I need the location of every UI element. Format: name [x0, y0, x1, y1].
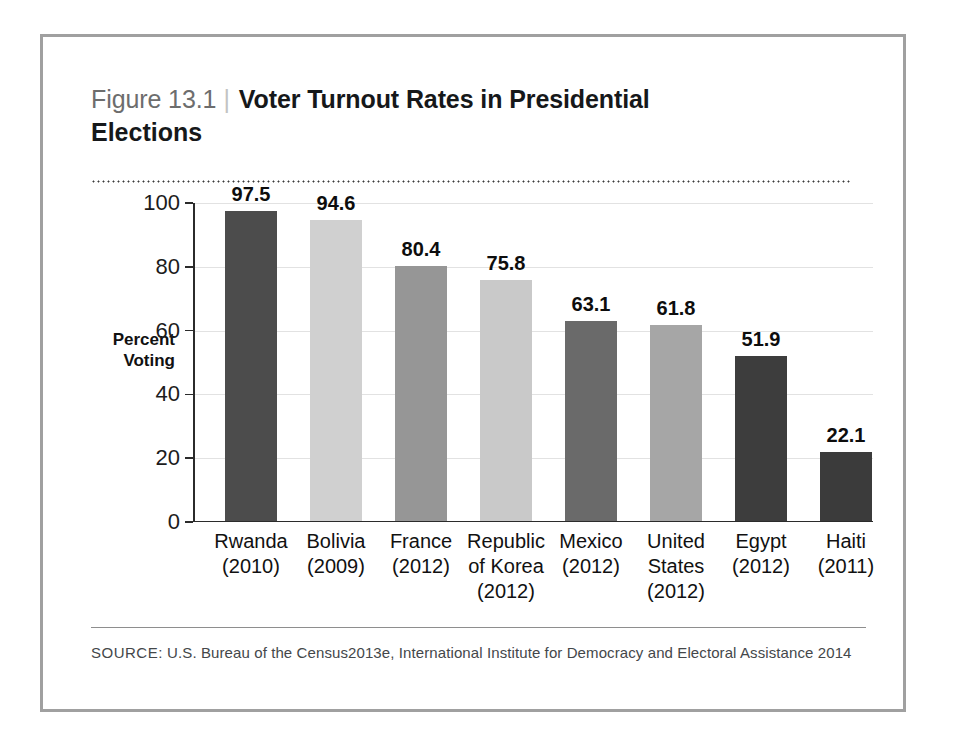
category-name: of Korea — [464, 554, 549, 579]
y-axis-tick — [185, 521, 193, 523]
x-axis-category-label: UnitedStates(2012) — [634, 529, 719, 604]
category-year: (2012) — [549, 554, 634, 579]
category-year: (2012) — [634, 579, 719, 604]
source-label: SOURCE: — [91, 644, 163, 661]
x-axis-category-label: France(2012) — [379, 529, 464, 579]
bar-value-label: 75.8 — [487, 252, 526, 275]
chart-plot-area: PercentVoting 97.594.680.475.863.161.851… — [193, 203, 873, 522]
bar-value-label: 63.1 — [572, 293, 611, 316]
x-axis-category-label: Mexico(2012) — [549, 529, 634, 579]
category-year: (2012) — [379, 554, 464, 579]
bar[interactable] — [565, 321, 617, 522]
figure-title-divider: | — [216, 85, 238, 113]
source-text: U.S. Bureau of the Census2013e, Internat… — [163, 644, 852, 661]
category-year: (2009) — [294, 554, 379, 579]
y-axis-tick — [185, 330, 193, 332]
bar-slot: 80.4 — [395, 203, 447, 522]
category-name: United — [634, 529, 719, 554]
category-name: Mexico — [549, 529, 634, 554]
category-name: Egypt — [719, 529, 804, 554]
y-axis-tick — [185, 202, 193, 204]
bar-value-label: 80.4 — [402, 238, 441, 261]
figure-title-line-1: Figure 13.1|Voter Turnout Rates in Presi… — [91, 83, 851, 116]
bar-value-label: 94.6 — [317, 192, 356, 215]
x-axis-category-label: Egypt(2012) — [719, 529, 804, 579]
bar-value-label: 97.5 — [232, 183, 271, 206]
bar[interactable] — [820, 452, 872, 522]
category-year: (2011) — [804, 554, 889, 579]
bar[interactable] — [225, 211, 277, 522]
figure-title-block: Figure 13.1|Voter Turnout Rates in Presi… — [91, 83, 851, 149]
bar-value-label: 51.9 — [742, 328, 781, 351]
bar[interactable] — [650, 325, 702, 522]
x-axis-category-labels: Rwanda(2010)Bolivia(2009)France(2012)Rep… — [193, 529, 873, 629]
source-note: SOURCE: U.S. Bureau of the Census2013e, … — [91, 641, 866, 665]
figure-frame: Figure 13.1|Voter Turnout Rates in Presi… — [40, 34, 906, 712]
y-axis-tick-label: 20 — [156, 445, 180, 471]
bar[interactable] — [310, 220, 362, 522]
bar-slot: 22.1 — [820, 203, 872, 522]
bar[interactable] — [480, 280, 532, 522]
x-axis-category-label: Haiti(2011) — [804, 529, 889, 579]
figure-title-text: Voter Turnout Rates in Presidential — [239, 85, 650, 113]
bar-slot: 61.8 — [650, 203, 702, 522]
figure-title-line-2: Elections — [91, 116, 851, 149]
y-axis-tick-label: 0 — [168, 509, 180, 535]
x-axis-category-label: Bolivia(2009) — [294, 529, 379, 579]
bar-slot: 63.1 — [565, 203, 617, 522]
y-axis-tick-label: 80 — [156, 254, 180, 280]
bar-slot: 75.8 — [480, 203, 532, 522]
y-axis-tick-label: 40 — [156, 381, 180, 407]
bar-slot: 94.6 — [310, 203, 362, 522]
category-name: States — [634, 554, 719, 579]
y-axis-tick — [185, 394, 193, 396]
bar[interactable] — [735, 356, 787, 522]
bar-value-label: 61.8 — [657, 297, 696, 320]
y-axis-line — [193, 203, 195, 522]
y-axis-tick-label: 100 — [143, 190, 180, 216]
category-year: (2012) — [719, 554, 804, 579]
y-axis-tick — [185, 266, 193, 268]
category-year: (2012) — [464, 579, 549, 604]
x-axis-category-label: Republicof Korea(2012) — [464, 529, 549, 604]
category-name: Rwanda — [209, 529, 294, 554]
bar[interactable] — [395, 266, 447, 522]
chart-plot-inner: 97.594.680.475.863.161.851.922.1 0204060… — [193, 203, 873, 522]
category-name: France — [379, 529, 464, 554]
bar-value-label: 22.1 — [827, 424, 866, 447]
x-axis-line — [193, 521, 873, 523]
y-axis-tick — [185, 457, 193, 459]
figure-number: Figure 13.1 — [91, 85, 216, 113]
y-axis-tick-label: 60 — [156, 318, 180, 344]
title-dotted-divider — [91, 180, 851, 183]
bar-slot: 51.9 — [735, 203, 787, 522]
x-axis-category-label: Rwanda(2010) — [209, 529, 294, 579]
bar-slot: 97.5 — [225, 203, 277, 522]
category-year: (2010) — [209, 554, 294, 579]
source-divider — [91, 627, 866, 628]
category-name: Haiti — [804, 529, 889, 554]
y-axis-title-line: Voting — [53, 350, 175, 371]
category-name: Republic — [464, 529, 549, 554]
category-name: Bolivia — [294, 529, 379, 554]
